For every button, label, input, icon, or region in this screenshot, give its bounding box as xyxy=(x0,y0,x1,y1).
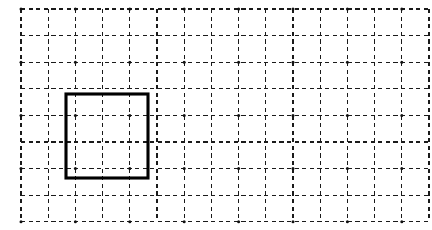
grid-figure: Dashed grid with a bold square outline xyxy=(0,0,432,230)
bold-square xyxy=(66,94,148,178)
shape-layer xyxy=(0,0,432,230)
